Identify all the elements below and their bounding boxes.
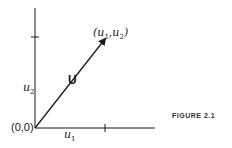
x-component-label: u1 — [64, 129, 76, 143]
figure-caption: FIGURE 2.1 — [172, 112, 215, 119]
endpoint-label: (u1,u2) — [93, 27, 128, 41]
origin-label: (0,0) — [11, 122, 34, 133]
vector-label: U — [68, 74, 77, 86]
y-component-label: u2 — [23, 82, 35, 96]
vector-diagram — [0, 0, 232, 148]
